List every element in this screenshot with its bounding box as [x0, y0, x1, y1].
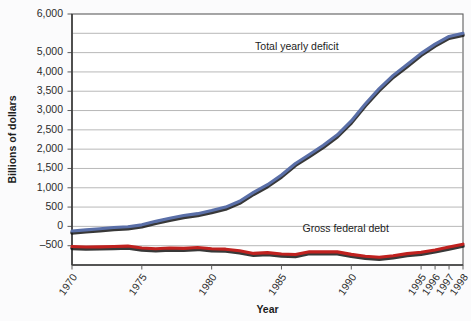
x-axis-tick-label: 1990 [335, 271, 358, 297]
y-axis-tick-label: 4,000 [37, 65, 63, 77]
chart-figure: 6,0005,0004,0003,5003,0002,5002,0001,500… [0, 0, 471, 321]
series-annotation: Gross federal debt [303, 222, 389, 234]
y-axis-tick-label: –500 [40, 238, 64, 250]
x-axis-tick-label: 1985 [265, 271, 288, 297]
x-axis-title: Year [256, 303, 278, 315]
y-axis-tick-label: 1,500 [37, 161, 63, 173]
series-annotation: Total yearly deficit [255, 40, 339, 52]
x-axis-tick-label: 1975 [126, 271, 149, 297]
y-axis-title: Billions of dollars [6, 95, 18, 183]
y-axis-tick-label: 1,000 [37, 181, 63, 193]
x-axis-tick-label: 1970 [56, 271, 79, 297]
y-axis-tick-label: 500 [45, 200, 63, 212]
line-chart: 6,0005,0004,0003,5003,0002,5002,0001,500… [0, 0, 471, 321]
y-axis-tick-label: 0 [57, 219, 63, 231]
x-axis-tick-label: 1980 [196, 271, 219, 297]
y-axis-tick-label: 2,500 [37, 123, 63, 135]
y-axis-tick-label: 5,000 [37, 45, 63, 57]
y-axis-tick-label: 3,000 [37, 103, 63, 115]
y-axis-tick-label: 3,500 [37, 84, 63, 96]
y-axis-tick-label: 6,000 [37, 7, 63, 19]
y-axis-tick-label: 2,000 [37, 142, 63, 154]
